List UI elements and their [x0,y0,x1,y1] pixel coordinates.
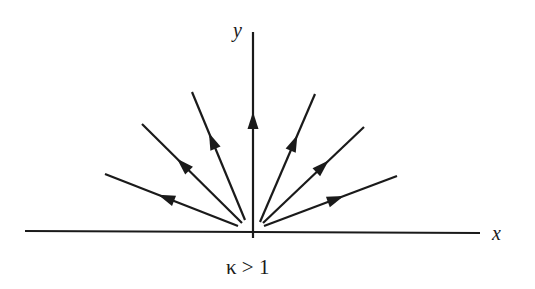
arrowhead-icon [326,196,344,207]
arrowhead-icon [158,195,176,206]
trajectory-right-upper [260,94,315,222]
arrowhead-icon [286,135,298,153]
arrowhead-icon [209,133,221,151]
y-axis-label: y [231,19,242,42]
axes [25,32,480,238]
arrowhead-icon [248,112,259,129]
phase-portrait-diagram: y x κ > 1 [0,0,535,289]
x-axis-label: x [491,222,501,244]
trajectory-right-mid [263,127,364,223]
trajectory-right-low [264,176,397,226]
kappa-condition-caption: κ > 1 [226,255,269,279]
trajectory-vertical [248,112,259,129]
trajectories [105,92,397,226]
